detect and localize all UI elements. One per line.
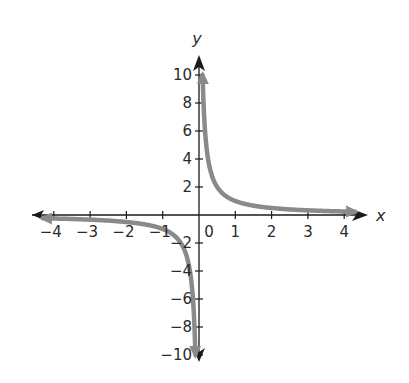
y-tick-label: −6 [170,290,192,308]
y-tick-label: 2 [182,178,192,196]
y-axis-label: y [191,29,202,48]
y-tick-label: 8 [182,94,192,112]
hyperbola-chart: −4−3−2−11234−10−8−6−4−22468100xy [0,0,409,383]
y-tick-label: 4 [182,150,192,168]
x-tick-label: 3 [303,223,313,241]
x-axis-label: x [375,206,386,225]
x-tick-label: 4 [339,223,349,241]
origin-label: 0 [204,223,214,241]
y-tick-label: −10 [160,346,192,364]
x-tick-label: −2 [112,223,134,241]
x-tick-label: −1 [149,223,171,241]
y-tick-label: 10 [173,66,192,84]
y-tick-label: 6 [182,122,192,140]
y-tick-label: −2 [170,234,192,252]
y-tick-label: −4 [170,262,192,280]
curve-branch-positive [203,75,355,212]
labels: −4−3−2−11234−10−8−6−4−22468100xy [40,29,386,364]
x-tick-label: 1 [231,223,241,241]
x-tick-label: 2 [267,223,277,241]
x-tick-label: −4 [40,223,62,241]
y-tick-label: −8 [170,318,192,336]
x-tick-label: −3 [76,223,98,241]
